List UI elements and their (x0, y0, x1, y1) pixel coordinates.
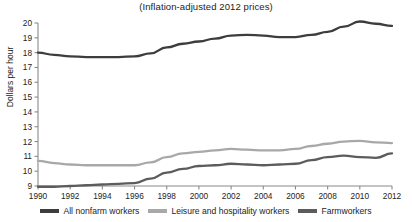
y-axis-tick-label: 14 (23, 107, 33, 117)
x-axis-tick-label: 1996 (125, 191, 144, 201)
y-axis-tick-label: 9 (27, 181, 32, 191)
y-axis-tick-label: 12 (23, 137, 33, 147)
x-axis-tick-label: 1992 (61, 191, 80, 201)
legend-swatch-icon (148, 209, 167, 212)
y-axis-tick-label: 15 (23, 92, 33, 102)
legend-item[interactable]: Leisure and hospitality workers (148, 206, 289, 216)
legend-item-label: All nonfarm workers (63, 206, 139, 216)
x-axis-tick-label: 2000 (190, 191, 209, 201)
x-axis: 1990199219941996199820002002200420062008… (29, 186, 402, 201)
legend-item[interactable]: Farmworkers (298, 206, 371, 216)
legend-item-label: Leisure and hospitality workers (171, 206, 289, 216)
y-axis-tick-label: 19 (23, 33, 33, 43)
x-axis-tick-label: 1990 (29, 191, 48, 201)
y-axis-tick-label: 11 (23, 151, 32, 161)
y-axis-tick-label: 17 (23, 62, 33, 72)
y-axis-tick-label: 20 (23, 18, 33, 28)
y-axis: 91011121314151617181920 (23, 18, 38, 191)
series-line (38, 22, 392, 58)
y-axis-tick-label: 13 (23, 122, 33, 132)
chart-plot-area: 91011121314151617181920 1990199219941996… (0, 0, 412, 222)
x-axis-tick-label: 2010 (351, 191, 370, 201)
y-axis-tick-label: 18 (23, 48, 33, 58)
legend-item[interactable]: All nonfarm workers (40, 206, 139, 216)
chart-container: (Inflation-adjusted 2012 prices) Dollars… (0, 0, 412, 222)
x-axis-tick-label: 2004 (254, 191, 273, 201)
legend-swatch-icon (298, 209, 317, 212)
x-axis-tick-label: 2008 (318, 191, 337, 201)
legend-swatch-icon (40, 209, 59, 212)
y-axis-tick-label: 10 (23, 166, 33, 176)
x-axis-tick-label: 2012 (383, 191, 402, 201)
chart-series-group (38, 22, 392, 187)
legend-item-label: Farmworkers (321, 206, 371, 216)
series-line (38, 141, 392, 165)
x-axis-tick-label: 2006 (286, 191, 305, 201)
chart-legend: All nonfarm workersLeisure and hospitali… (0, 206, 412, 216)
y-axis-tick-label: 16 (23, 77, 33, 87)
series-line (38, 153, 392, 186)
x-axis-tick-label: 1994 (93, 191, 112, 201)
x-axis-tick-label: 1998 (157, 191, 176, 201)
x-axis-tick-label: 2002 (222, 191, 241, 201)
